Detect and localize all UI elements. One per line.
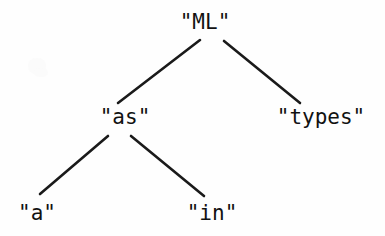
scan-noise-artifact bbox=[28, 58, 46, 74]
scan-noise-artifact bbox=[34, 68, 48, 77]
tree-node-types: "types" bbox=[277, 105, 366, 129]
tree-node-in: "in" bbox=[187, 201, 238, 225]
edge-root-to-left bbox=[118, 40, 200, 103]
edge-left-to-leaf-left bbox=[40, 136, 108, 194]
tree-node-a: "a" bbox=[18, 201, 56, 225]
tree-node-as: "as" bbox=[100, 105, 151, 129]
tree-node-root: "ML" bbox=[180, 10, 231, 34]
edge-root-to-right bbox=[224, 41, 300, 103]
tree-diagram-figure: "ML" "as" "types" "a" "in" bbox=[0, 0, 385, 236]
edge-left-to-leaf-right bbox=[131, 136, 204, 196]
